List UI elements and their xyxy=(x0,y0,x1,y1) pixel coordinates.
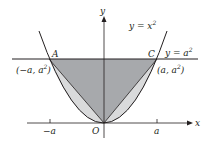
parabola-equation-label: y = x2 xyxy=(128,19,156,31)
parabola-equation-main: y = x xyxy=(128,21,152,31)
line-equation-label: y = a2 xyxy=(164,46,193,58)
point-a-coord-end: ) xyxy=(46,65,51,75)
tick-label-neg-a: −a xyxy=(43,126,56,136)
point-a-coord-main: (−a, a xyxy=(16,65,44,75)
point-c-coord-end: ) xyxy=(180,65,185,75)
parabola-diagram: y x O −a a A C y = x2 y = a2 (−a, a2) (a… xyxy=(0,0,209,143)
x-axis-arrow-icon xyxy=(187,121,193,126)
parabola-equation-sup: 2 xyxy=(151,19,156,26)
line-equation-sup: 2 xyxy=(188,46,193,53)
y-axis-label: y xyxy=(99,6,106,16)
point-c-coord-main: (a, a xyxy=(157,65,177,75)
line-equation-main: y = a xyxy=(164,48,189,58)
point-a-label: A xyxy=(51,49,59,59)
point-c-coordinates: (a, a2) xyxy=(157,63,185,75)
tick-label-a: a xyxy=(154,126,159,136)
origin-label: O xyxy=(92,126,100,136)
point-c-label: C xyxy=(148,49,155,59)
point-a-coordinates: (−a, a2) xyxy=(16,63,51,75)
x-axis-label: x xyxy=(195,118,200,128)
y-axis-arrow-icon xyxy=(102,16,107,22)
